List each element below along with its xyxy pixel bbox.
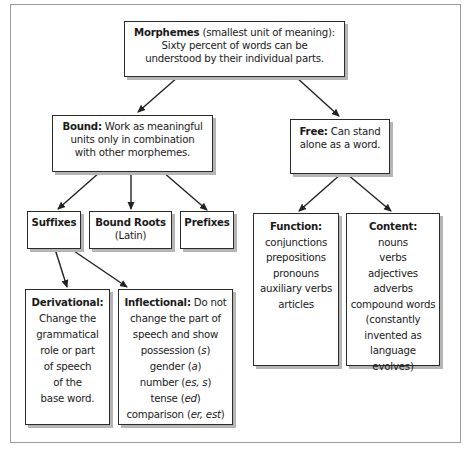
- node-heading: Morphemes: [134, 27, 199, 38]
- example-gender: gender (a): [120, 359, 231, 375]
- node-suffixes: Suffixes: [27, 211, 81, 249]
- node-bound: Bound: Work as meaningful units only in …: [52, 115, 213, 172]
- node-bound-roots: Bound Roots (Latin): [89, 211, 172, 249]
- node-free: Free: Can stand alone as a word.: [290, 119, 390, 174]
- example-comparison: comparison (er, est): [120, 407, 231, 423]
- example-tense: tense (ed): [120, 391, 231, 407]
- example-number: number (es, s): [120, 375, 231, 391]
- example-possession: possession (s): [120, 343, 231, 359]
- node-content: Content: nouns verbs adjectives adverbs …: [346, 213, 440, 366]
- node-prefixes: Prefixes: [180, 211, 234, 249]
- node-heading: Inflectional:: [124, 297, 190, 308]
- node-function: Function: conjunctions prepositions pron…: [253, 213, 339, 366]
- node-morphemes: Morphemes (smallest unit of meaning): Si…: [124, 21, 345, 77]
- node-inflectional: Inflectional: Do not change the part of …: [118, 289, 233, 425]
- node-heading: Bound:: [62, 121, 101, 132]
- node-derivational: Derivational: Change the grammatical rol…: [25, 289, 110, 425]
- node-heading: Free:: [300, 126, 328, 137]
